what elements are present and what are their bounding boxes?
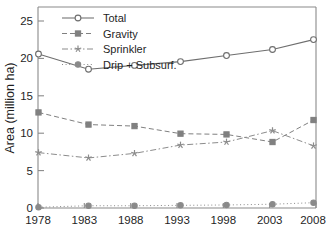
x-axis-ticks: 1978 1983 1988 1993 1998 2003 2008	[25, 203, 326, 226]
legend-label: Drip + Subsurf.	[103, 59, 177, 71]
data-point	[36, 205, 41, 210]
line-chart: 0 5 10 15 20 25 1978 1983 1988 1993 1998…	[0, 0, 328, 244]
series-line	[39, 112, 314, 142]
data-point	[178, 59, 184, 65]
data-point	[270, 47, 276, 53]
data-point	[311, 200, 316, 205]
x-tick-label-2003: 2003	[257, 214, 283, 226]
legend-marker	[75, 31, 80, 36]
data-point	[132, 203, 137, 208]
data-point	[311, 37, 317, 43]
chart-legend: TotalGravitySprinklerDrip + Subsurf.	[62, 12, 177, 71]
data-point	[36, 51, 42, 57]
data-point	[270, 139, 275, 144]
data-point	[85, 155, 91, 161]
y-tick-label-0: 0	[27, 202, 33, 214]
data-point	[36, 110, 41, 115]
data-point	[224, 132, 229, 137]
data-point	[269, 127, 275, 133]
data-point	[178, 131, 183, 136]
data-point	[223, 139, 229, 145]
x-tick-label-1978: 1978	[25, 214, 51, 226]
legend-label: Gravity	[103, 28, 138, 40]
series-gravity	[36, 110, 316, 145]
plot-frame	[38, 7, 316, 208]
y-tick-label-25: 25	[20, 15, 33, 27]
legend-marker	[75, 46, 81, 52]
x-tick-label-1993: 1993	[164, 214, 190, 226]
x-tick-label-1998: 1998	[211, 214, 237, 226]
legend-item-drip-subsurf[interactable]: Drip + Subsurf.	[62, 59, 177, 71]
y-tick-label-5: 5	[27, 165, 33, 177]
data-point	[224, 53, 230, 59]
legend-item-gravity[interactable]: Gravity	[62, 28, 138, 40]
legend-marker	[75, 15, 81, 21]
data-point	[86, 203, 91, 208]
data-point	[86, 66, 92, 72]
data-point	[270, 202, 275, 207]
x-tick-label-1988: 1988	[118, 214, 144, 226]
data-point	[132, 123, 137, 128]
y-tick-label-10: 10	[20, 127, 33, 139]
legend-item-sprinkler[interactable]: Sprinkler	[62, 43, 147, 55]
data-point	[224, 202, 229, 207]
legend-item-total[interactable]: Total	[62, 12, 126, 24]
y-axis-title: Area (million ha)	[3, 62, 17, 153]
data-point	[86, 122, 91, 127]
data-point	[131, 150, 137, 156]
legend-label: Sprinkler	[103, 43, 147, 55]
chart-container: 0 5 10 15 20 25 1978 1983 1988 1993 1998…	[0, 0, 328, 244]
data-point	[311, 117, 316, 122]
data-point	[178, 203, 183, 208]
legend-label: Total	[103, 12, 126, 24]
legend-marker	[75, 62, 80, 67]
data-point	[177, 142, 183, 148]
x-tick-label-1983: 1983	[72, 214, 98, 226]
y-tick-label-20: 20	[20, 52, 33, 64]
x-tick-label-2008: 2008	[300, 214, 326, 226]
y-tick-label-15: 15	[20, 90, 33, 102]
